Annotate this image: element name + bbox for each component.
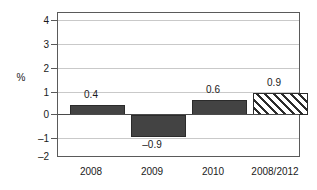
gridline-3 [58, 44, 299, 45]
bar-2009 [131, 115, 186, 137]
gridline-zero [58, 114, 299, 115]
x-axis-label-2009: 2009 [121, 166, 183, 178]
bar-chart-figure: % 4 3 2 1 0 –1 –2 0.4 –0.9 0.6 0.9 2008 … [0, 0, 317, 190]
x-axis-label-2008: 2008 [60, 166, 122, 178]
bar-2008-2012 [253, 93, 308, 115]
x-axis-label-2008-2012: 2008/2012 [241, 166, 309, 178]
diagonal-hatch-pattern [253, 93, 308, 115]
value-label-2008-2012: 0.9 [245, 77, 303, 88]
y-tick-label-3: 3 [23, 39, 49, 50]
gridline-2 [58, 68, 299, 69]
x-axis-label-2010: 2010 [182, 166, 244, 178]
y-tick-label-1: 1 [23, 87, 49, 98]
y-tick-label-2: 2 [23, 63, 49, 74]
y-tick-label-neg-1: –1 [23, 133, 49, 144]
value-label-2010: 0.6 [184, 84, 242, 95]
y-tick-label-4: 4 [23, 15, 49, 26]
y-tick-label-0: 0 [23, 109, 49, 120]
value-label-2008: 0.4 [62, 89, 120, 100]
bar-2010 [192, 100, 247, 115]
gridline-4 [58, 20, 299, 21]
value-label-2009: –0.9 [123, 139, 181, 150]
y-tick-label-neg-2: –2 [23, 151, 49, 162]
